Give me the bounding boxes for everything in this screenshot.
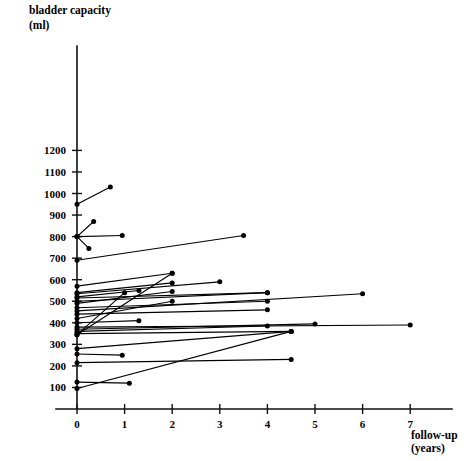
series-segment [75,233,125,239]
x-tick-label: 5 [312,418,318,430]
series-point-start [75,386,80,391]
series-point-start [75,234,80,239]
series-point-end [265,290,270,295]
series-point-end [86,246,91,251]
chart-title-line1: bladder capacity [29,4,111,17]
series-point-end [313,321,318,326]
x-tick-label: 1 [122,418,128,430]
series-segment [75,233,247,263]
series-line [77,222,94,237]
series-point-start [75,360,80,365]
series-point-end [265,307,270,312]
series-point-start [75,258,80,263]
series-point-end [108,185,113,190]
chart-title-group: bladder capacity (ml) [29,4,111,32]
series-point-end [289,357,294,362]
series-point-end [122,290,127,295]
series-point-end [170,280,175,285]
x-axis-title-line1: follow-up [411,429,458,442]
series-line [77,382,129,383]
series-point-start [75,284,80,289]
y-tick-label: 1100 [45,166,67,178]
series-segment [75,357,294,365]
series-point-end [170,289,175,294]
x-tick-label: 4 [265,418,271,430]
y-tick-label: 700 [50,252,67,264]
y-tick-label: 1200 [44,144,67,156]
series-point-end [127,381,132,386]
series-point-start [75,316,80,321]
series-segment [75,279,223,296]
chart-svg: bladder capacity (ml) 100200300400500600… [0,0,464,461]
series-point-start [75,332,80,337]
series-layer [75,185,413,391]
series-segment [75,380,132,386]
series-line [77,236,244,261]
series-point-end [136,288,141,293]
series-point-end [265,324,270,329]
series-point-start [75,202,80,207]
series-segment [75,318,142,325]
x-tick-group: 01234567 [74,404,413,430]
series-point-end [360,291,365,296]
series-point-end [91,219,96,224]
series-point-end [241,233,246,238]
series-point-end [120,353,125,358]
series-point-end [217,279,222,284]
x-axis: 01234567 follow-up (years) [56,404,458,455]
series-point-end [170,271,175,276]
series-point-end [170,299,175,304]
series-line [77,236,122,237]
series-line [77,321,139,323]
series-line [77,187,110,204]
series-line [77,331,291,333]
x-tick-label: 2 [169,418,175,430]
series-point-end [136,318,141,323]
y-tick-label: 1000 [44,188,67,200]
y-tick-label: 200 [50,360,67,372]
y-tick-label: 300 [50,338,67,350]
series-point-end [408,322,413,327]
y-tick-label: 900 [50,209,67,221]
series-point-start [75,320,80,325]
y-tick-label: 800 [50,231,67,243]
y-tick-label: 100 [50,381,67,393]
series-point-end [289,329,294,334]
series-segment [75,271,175,289]
series-point-start [75,301,80,306]
x-tick-label: 0 [74,418,80,430]
y-tick-label: 600 [50,274,67,286]
chart-title-line2: (ml) [29,19,50,32]
bladder-capacity-chart: bladder capacity (ml) 100200300400500600… [0,0,464,461]
y-tick-label: 400 [50,317,67,329]
series-line [77,237,89,249]
y-tick-label: 500 [50,295,67,307]
x-axis-title-line2: (years) [411,442,445,455]
series-segment [75,352,125,358]
x-tick-label: 6 [360,418,366,430]
series-point-start [75,346,80,351]
series-point-start [75,380,80,385]
series-point-end [120,233,125,238]
series-point-start [75,352,80,357]
series-segment [75,185,113,207]
series-point-start [75,312,80,317]
x-tick-label: 3 [217,418,223,430]
series-line [77,354,122,355]
